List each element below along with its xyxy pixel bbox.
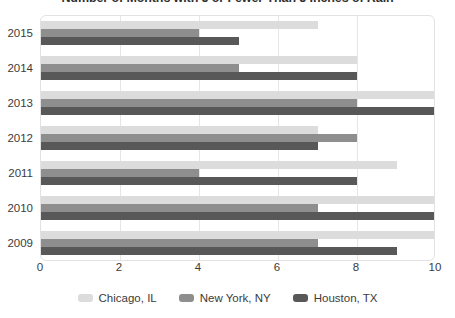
bar[interactable] — [41, 29, 199, 37]
bar[interactable] — [41, 91, 435, 99]
bar-row — [41, 72, 434, 80]
bar[interactable] — [41, 107, 435, 115]
bar-row — [41, 239, 434, 247]
bar-row — [41, 37, 434, 45]
legend-swatch-icon — [78, 294, 93, 302]
bar-row — [41, 231, 434, 239]
bar[interactable] — [41, 21, 318, 29]
bar-group — [41, 121, 434, 156]
bar[interactable] — [41, 231, 435, 239]
bar-chart: Number of Months with 5 or Fewer Than 5 … — [0, 0, 455, 318]
bar[interactable] — [41, 99, 357, 107]
bar-row — [41, 142, 434, 150]
bar-row — [41, 99, 434, 107]
bar[interactable] — [41, 204, 318, 212]
bar[interactable] — [41, 56, 357, 64]
bar[interactable] — [41, 72, 357, 80]
y-axis-category-labels: 2015 2014 2013 2012 2011 2010 2009 — [0, 15, 36, 261]
bar[interactable] — [41, 169, 199, 177]
bar-row — [41, 107, 434, 115]
bar-row — [41, 161, 434, 169]
bar[interactable] — [41, 37, 239, 45]
bar-row — [41, 64, 434, 72]
bar-groups — [41, 16, 434, 260]
legend-swatch-icon — [293, 294, 308, 302]
y-axis-label: 2010 — [0, 191, 36, 226]
plot-area — [40, 15, 435, 261]
bar-row — [41, 56, 434, 64]
y-axis-label: 2012 — [0, 120, 36, 155]
y-axis-label: 2013 — [0, 85, 36, 120]
legend-label: New York, NY — [200, 292, 271, 304]
bar-row — [41, 212, 434, 220]
x-axis-tick-label: 2 — [116, 261, 122, 273]
bar[interactable] — [41, 126, 318, 134]
legend-label: Chicago, IL — [99, 292, 157, 304]
legend-item[interactable]: New York, NY — [179, 292, 271, 304]
chart-title: Number of Months with 5 or Fewer Than 5 … — [0, 0, 455, 5]
x-axis-tick-label: 0 — [37, 261, 43, 273]
bar[interactable] — [41, 177, 357, 185]
bar-group — [41, 190, 434, 225]
bar-row — [41, 126, 434, 134]
bar[interactable] — [41, 161, 397, 169]
bar[interactable] — [41, 64, 239, 72]
bar-row — [41, 21, 434, 29]
bar-row — [41, 204, 434, 212]
bar[interactable] — [41, 247, 397, 255]
x-axis-tick-label: 10 — [429, 261, 442, 273]
legend: Chicago, ILNew York, NYHouston, TX — [0, 292, 455, 304]
bar-row — [41, 177, 434, 185]
y-axis-label: 2009 — [0, 226, 36, 261]
y-axis-label: 2015 — [0, 15, 36, 50]
bar[interactable] — [41, 239, 318, 247]
bar-row — [41, 247, 434, 255]
bar-group — [41, 155, 434, 190]
bar-group — [41, 51, 434, 86]
bar-row — [41, 169, 434, 177]
legend-swatch-icon — [179, 294, 194, 302]
x-axis-tick-label: 4 — [195, 261, 201, 273]
bar[interactable] — [41, 142, 318, 150]
y-axis-label: 2014 — [0, 50, 36, 85]
bar-group — [41, 16, 434, 51]
legend-item[interactable]: Chicago, IL — [78, 292, 157, 304]
bar[interactable] — [41, 196, 435, 204]
bar[interactable] — [41, 134, 357, 142]
legend-label: Houston, TX — [314, 292, 378, 304]
x-axis-tick-label: 8 — [353, 261, 359, 273]
bar-row — [41, 134, 434, 142]
bar-group — [41, 86, 434, 121]
legend-item[interactable]: Houston, TX — [293, 292, 378, 304]
bar-row — [41, 196, 434, 204]
bar-row — [41, 91, 434, 99]
bar-row — [41, 29, 434, 37]
bar-group — [41, 225, 434, 260]
y-axis-label: 2011 — [0, 156, 36, 191]
bar[interactable] — [41, 212, 435, 220]
x-axis-tick-label: 6 — [274, 261, 280, 273]
x-axis: 0246810 — [40, 261, 435, 283]
